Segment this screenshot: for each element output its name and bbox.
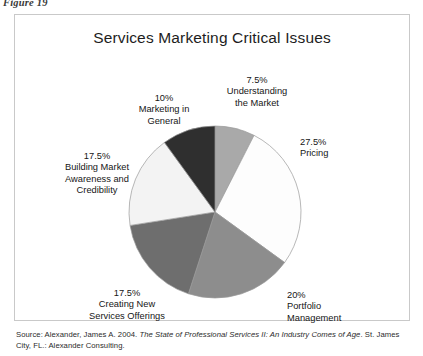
pie-label-building-market-awareness: 17.5% Building Market Awareness and Cred…: [32, 151, 162, 197]
pie-label-building-line1: Building Market: [32, 162, 162, 173]
pie-label-creating-new-services-offerings: 17.5% Creating New Services Offerings: [62, 288, 192, 322]
pie-label-creating-line2: Services Offerings: [62, 311, 192, 322]
pie-label-creating-percent: 17.5%: [62, 288, 192, 299]
pie-label-general-percent: 10%: [110, 93, 218, 104]
pie-label-creating-line1: Creating New: [62, 299, 192, 310]
pie-label-building-line2: Awareness and: [32, 174, 162, 185]
pie-label-pricing-percent: 27.5%: [300, 137, 404, 148]
pie-label-portfolio-line2: Management: [287, 313, 405, 324]
figure-caption: Figure 19: [3, 0, 48, 8]
pie-label-general-line1: Marketing in: [110, 104, 218, 115]
pie-label-pricing: 27.5% Pricing: [300, 137, 404, 160]
pie-label-portfolio-line1: Portfolio: [287, 301, 405, 312]
pie-label-general-line2: General: [110, 116, 218, 127]
pie-label-portfolio-management: 20% Portfolio Management: [287, 290, 405, 324]
source-prefix: Source: Alexander, James A. 2004.: [16, 330, 140, 339]
pie-label-marketing-in-general: 10% Marketing in General: [110, 93, 218, 127]
chart-frame: Services Marketing Critical Issues 7.5% …: [14, 14, 410, 321]
pie-label-pricing-line1: Pricing: [300, 148, 404, 159]
pie-label-building-line3: Credibility: [32, 185, 162, 196]
source-title: The State of Professional Services II: A…: [140, 330, 361, 339]
pie-label-building-percent: 17.5%: [32, 151, 162, 162]
source-citation: Source: Alexander, James A. 2004. The St…: [16, 330, 414, 351]
pie-label-portfolio-percent: 20%: [287, 290, 405, 301]
pie-label-understanding-percent: 7.5%: [196, 75, 318, 86]
